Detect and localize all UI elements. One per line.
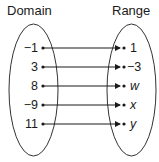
domain-value: 3 [10, 60, 38, 74]
domain-value: −1 [10, 41, 38, 55]
range-value: w [130, 79, 139, 93]
domain-value: 11 [10, 117, 38, 131]
domain-value: −9 [10, 98, 38, 112]
range-value: 1 [130, 41, 137, 55]
range-value: x [130, 98, 136, 112]
range-value: −3 [127, 60, 141, 74]
domain-value: 8 [10, 79, 38, 93]
range-dots [122, 46, 125, 125]
domain-dots [41, 46, 44, 125]
range-value: y [130, 117, 136, 131]
